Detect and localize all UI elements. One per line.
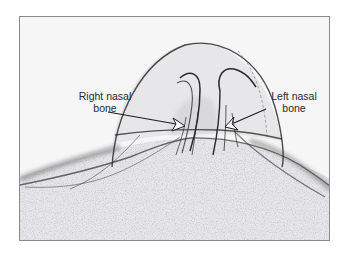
ultrasound-image-frame: Right nasal bone Left nasal bone	[19, 16, 330, 241]
left-nasal-bone-label-line2: bone	[264, 102, 324, 114]
left-nasal-bone-label-line1: Left nasal	[264, 90, 324, 102]
right-nasal-bone-label: Right nasal bone	[70, 90, 140, 114]
ultrasound-image	[20, 17, 330, 241]
right-nasal-bone-label-line1: Right nasal	[70, 90, 140, 102]
left-nasal-bone-label: Left nasal bone	[264, 90, 324, 114]
right-nasal-bone-label-line2: bone	[70, 102, 140, 114]
